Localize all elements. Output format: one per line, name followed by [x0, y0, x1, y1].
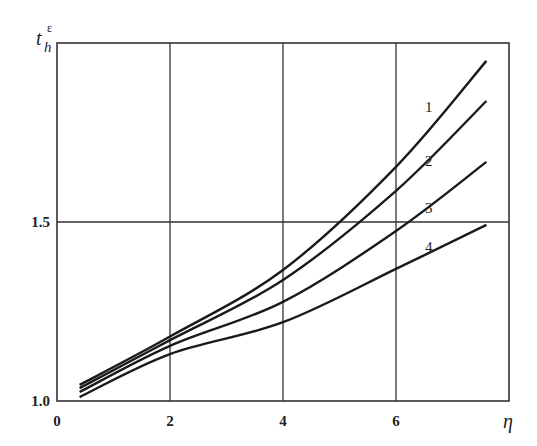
- y-axis-label-sup: ε: [47, 21, 52, 35]
- chart: 1234 0 2 4 6 1.0 1.5 η t h ε: [0, 0, 537, 446]
- y-axis-label-sub: h: [44, 39, 52, 55]
- x-tick-0: 0: [53, 413, 61, 429]
- x-axis-label: η: [503, 410, 513, 433]
- grid-lines: [57, 43, 509, 401]
- curve-label-4: 4: [425, 239, 433, 255]
- curve-label-1: 1: [425, 99, 433, 115]
- curve-label-2: 2: [425, 153, 433, 169]
- x-tick-4: 4: [279, 413, 287, 429]
- curve-label-3: 3: [425, 200, 433, 216]
- y-axis-label: t: [36, 27, 42, 49]
- curve-labels: 1234: [425, 99, 433, 255]
- x-tick-6: 6: [392, 413, 400, 429]
- y-tick-1-5: 1.5: [31, 214, 50, 230]
- y-tick-1-0: 1.0: [31, 393, 50, 409]
- x-tick-2: 2: [166, 413, 174, 429]
